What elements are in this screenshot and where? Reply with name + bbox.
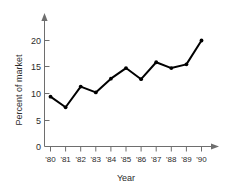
x-tick-label-88: '88 — [166, 155, 177, 164]
data-point-84 — [109, 77, 113, 81]
x-tick-marks — [51, 147, 202, 152]
x-tick-labels: '80 '81 '82 '83 '84 '85 '86 '87 '88 '89 … — [45, 155, 207, 164]
data-point-88 — [169, 66, 173, 70]
x-axis-title: Year — [117, 173, 135, 183]
x-tick-label-84: '84 — [106, 155, 117, 164]
data-point-87 — [154, 60, 158, 64]
y-tick-label-20: 20 — [31, 36, 41, 46]
data-point-81 — [64, 105, 68, 109]
data-point-85 — [124, 66, 128, 70]
x-tick-label-80: '80 — [45, 155, 56, 164]
x-tick-label-82: '82 — [75, 155, 86, 164]
data-point-82 — [79, 85, 83, 89]
x-tick-label-86: '86 — [136, 155, 147, 164]
data-point-86 — [139, 77, 143, 81]
x-tick-label-85: '85 — [121, 155, 132, 164]
x-axis — [45, 143, 220, 149]
y-axis — [41, 13, 47, 146]
x-tick-label-87: '87 — [151, 155, 162, 164]
chart-canvas: 20 15 10 5 0 '80 '81 '82 '83 '84 '85 — [0, 0, 231, 196]
data-point-80 — [49, 95, 53, 99]
x-tick-label-83: '83 — [91, 155, 102, 164]
x-tick-label-90: '90 — [196, 155, 207, 164]
y-axis-arrow-icon — [41, 13, 47, 21]
y-axis-title: Percent of market — [14, 54, 24, 126]
y-tick-label-10: 10 — [31, 89, 41, 99]
data-point-89 — [185, 62, 189, 66]
x-axis-arrow-icon — [211, 143, 219, 149]
line-chart: 20 15 10 5 0 '80 '81 '82 '83 '84 '85 — [0, 0, 231, 196]
y-tick-marks — [45, 41, 50, 147]
y-tick-label-5: 5 — [36, 116, 41, 126]
y-tick-label-15: 15 — [31, 62, 41, 72]
y-tick-labels: 20 15 10 5 0 — [31, 36, 41, 152]
data-point-90 — [200, 39, 204, 43]
data-series-line — [51, 41, 202, 108]
data-point-83 — [94, 91, 98, 95]
x-tick-label-81: '81 — [60, 155, 71, 164]
y-tick-label-0: 0 — [36, 142, 41, 152]
x-tick-label-89: '89 — [181, 155, 192, 164]
